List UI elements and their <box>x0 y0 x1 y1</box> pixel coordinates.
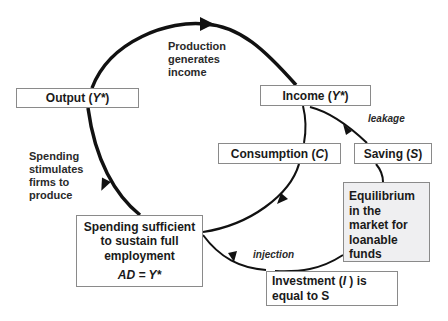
spending-arc <box>88 108 140 215</box>
stimulates-line: stimulates <box>29 163 83 176</box>
equilibrium-line: Equilibrium <box>349 189 415 204</box>
consumption-variable: C <box>315 147 324 161</box>
spending-line: employment <box>104 249 175 264</box>
income-box: Income (Y* ) <box>260 85 371 106</box>
arrowhead-top-icon <box>200 17 214 31</box>
saving-close: ) <box>418 147 422 161</box>
stimulates-line: Spending <box>29 150 83 163</box>
ad-equation: AD = Y* <box>118 268 161 283</box>
consumption-label: Consumption ( <box>231 147 316 161</box>
spending-line: Spending sufficient <box>84 220 195 235</box>
spending-box: Spending sufficient to sustain full empl… <box>76 215 203 287</box>
income-label: Income ( <box>282 89 331 103</box>
saving-variable: S <box>410 147 418 161</box>
production-line: income <box>168 66 226 79</box>
income-variable: Y* <box>332 89 345 103</box>
equilibrium-line: market for <box>349 218 415 233</box>
stimulates-line: produce <box>29 189 83 202</box>
stimulates-line: firms to <box>29 176 83 189</box>
saving-label: Saving ( <box>364 147 411 161</box>
investment-box: Investment (I ) is equal to S <box>266 271 398 306</box>
equilibrium-line: loanable <box>349 233 415 248</box>
spending-line: to sustain full <box>101 234 179 249</box>
production-line: generates <box>168 53 226 66</box>
income-close: ) <box>345 89 349 103</box>
consumption-close: ) <box>324 147 328 161</box>
investment-line2: equal to S <box>272 289 367 304</box>
injection-label: injection <box>253 248 294 261</box>
output-variable: Y* <box>92 91 105 105</box>
investment-label: Investment ( <box>272 274 343 288</box>
output-label: Output ( <box>46 91 93 105</box>
equilibrium-line: funds <box>349 247 415 262</box>
consumption-box: Consumption (C ) <box>218 143 341 164</box>
saving-box: Saving (S ) <box>354 143 432 164</box>
saving-to-equilibrium-line <box>376 164 383 182</box>
production-label: Production generates income <box>168 40 226 79</box>
leakage-arc <box>310 107 367 143</box>
output-box: Output (Y* ) <box>16 88 139 108</box>
investment-post: ) is <box>346 274 367 288</box>
equilibrium-line: in the <box>349 204 415 219</box>
spending-stimulates-label: Spending stimulates firms to produce <box>29 150 83 202</box>
output-close: ) <box>105 91 109 105</box>
equilibrium-box: Equilibrium in the market for loanable f… <box>343 182 430 262</box>
leakage-label: leakage <box>368 112 405 125</box>
income-to-consumption-line <box>303 106 305 143</box>
production-line: Production <box>168 40 226 53</box>
